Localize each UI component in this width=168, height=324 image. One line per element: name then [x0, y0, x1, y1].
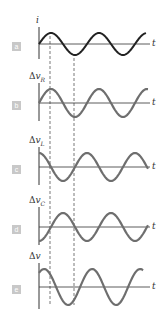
phasor-waveforms-diagram — [0, 0, 168, 324]
t-axis-label-c: t — [152, 161, 156, 171]
panel-label-c: c — [12, 165, 21, 174]
t-axis-label-e: t — [152, 281, 156, 291]
panel-label-d: d — [12, 225, 21, 234]
t-axis-label-b: t — [152, 97, 156, 107]
y-axis-label-a: i — [36, 15, 39, 25]
y-axis-label-d: ΔvC — [29, 195, 45, 207]
y-axis-label-e: Δv — [29, 251, 41, 263]
t-axis-label-a: t — [152, 38, 156, 48]
y-axis-label-b: ΔvR — [29, 71, 45, 83]
y-axis-label-c: ΔvL — [29, 135, 45, 147]
panel-label-b: b — [12, 101, 21, 110]
t-axis-label-d: t — [152, 221, 156, 231]
panel-label-a: a — [12, 42, 21, 51]
panel-label-e: e — [12, 285, 21, 294]
